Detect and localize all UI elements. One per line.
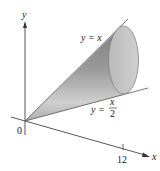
cone-diagram: y x 0 12 y = x y = x 2: [0, 0, 160, 171]
x-tick-label-12: 12: [117, 154, 127, 165]
x-axis-arrow-icon: [142, 153, 150, 158]
x-axis: [11, 117, 150, 157]
curve-label-y-equals-x: y = x: [80, 32, 102, 43]
svg-text:x: x: [109, 96, 115, 107]
origin-label: 0: [17, 125, 22, 136]
y-axis-label: y: [21, 9, 27, 20]
y-axis-arrow-icon: [23, 21, 27, 28]
svg-text:2: 2: [110, 108, 115, 119]
y-axis: [23, 21, 27, 135]
cone-base-disk: [109, 26, 139, 94]
x-axis-label: x: [151, 151, 157, 162]
svg-text:y =: y =: [90, 104, 105, 115]
